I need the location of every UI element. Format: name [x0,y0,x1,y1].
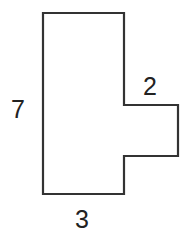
height-label: 7 [11,97,25,122]
tab-width-label: 2 [143,74,157,99]
composite-shape-diagram [0,0,192,242]
shape-outline [43,13,178,194]
base-width-label: 3 [75,207,89,232]
